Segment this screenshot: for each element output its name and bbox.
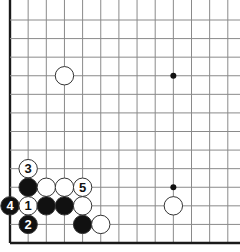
black-stone[interactable] <box>19 178 37 196</box>
white-stone-move-1[interactable]: 1 <box>19 197 37 215</box>
white-stone-icon <box>37 178 55 196</box>
black-stone-icon <box>19 178 37 196</box>
white-stone-icon <box>164 197 182 215</box>
white-stone-move-5[interactable]: 5 <box>73 178 91 196</box>
white-stone[interactable] <box>55 178 73 196</box>
move-number: 3 <box>25 161 32 176</box>
black-stone-icon <box>73 215 91 233</box>
black-stone[interactable] <box>37 197 55 215</box>
white-stone[interactable] <box>92 215 110 233</box>
black-stone-move-2[interactable]: 2 <box>19 215 37 233</box>
black-stone[interactable] <box>73 215 91 233</box>
move-number: 2 <box>25 217 32 232</box>
go-board[interactable]: 35412 <box>0 0 240 252</box>
white-stone-icon <box>92 215 110 233</box>
white-stone-icon <box>73 197 91 215</box>
move-number: 1 <box>25 198 32 213</box>
white-stone-move-3[interactable]: 3 <box>19 159 37 177</box>
star-point-icon <box>170 184 176 190</box>
black-stone-icon <box>55 197 73 215</box>
black-stone[interactable] <box>55 197 73 215</box>
black-stone-icon <box>37 197 55 215</box>
black-stone-move-4[interactable]: 4 <box>1 197 19 215</box>
white-stone-icon <box>55 67 73 85</box>
white-stone-icon <box>55 178 73 196</box>
move-number: 5 <box>79 180 86 195</box>
white-stone[interactable] <box>164 197 182 215</box>
white-stone[interactable] <box>37 178 55 196</box>
white-stone[interactable] <box>73 197 91 215</box>
move-number: 4 <box>6 198 14 213</box>
star-point-icon <box>170 73 176 79</box>
white-stone[interactable] <box>55 67 73 85</box>
